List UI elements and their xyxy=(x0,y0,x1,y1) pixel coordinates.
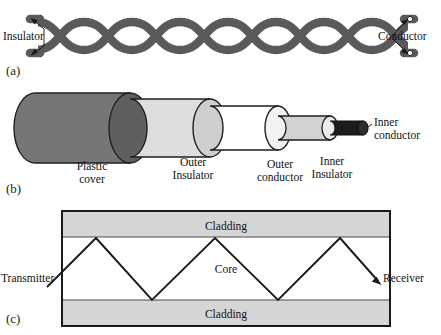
label-cladding-bottom: Cladding xyxy=(205,308,247,321)
label-plastic-cover: Plastic cover xyxy=(54,160,130,185)
panel-tag-c: (c) xyxy=(6,311,20,327)
label-transmitter: Transmitter xyxy=(1,272,54,285)
label-outer-conductor-line2: conductor xyxy=(257,171,303,183)
label-outer-insulator-line2: Insulator xyxy=(173,169,214,181)
inner-conductor-leader xyxy=(368,124,372,127)
coax-inner-insulator xyxy=(278,116,338,140)
optical-fiber-diagram: Cladding Cladding Core xyxy=(0,205,441,335)
label-plastic-cover-line1: Plastic xyxy=(77,160,108,172)
label-outer-insulator-line1: Outer xyxy=(180,156,206,168)
transmission-media-figure: Insulator Conductor (a) xyxy=(0,0,441,335)
label-inner-insulator-line2: Insulator xyxy=(312,168,353,180)
label-conductor: Conductor xyxy=(378,30,427,43)
label-plastic-cover-line2: cover xyxy=(79,173,105,185)
label-inner-conductor: Inner conductor xyxy=(374,116,438,141)
panel-tag-b: (b) xyxy=(6,181,21,197)
label-inner-insulator: Inner Insulator xyxy=(298,155,366,180)
label-core: Core xyxy=(215,263,237,275)
label-inner-conductor-line1: Inner xyxy=(374,116,398,128)
label-cladding-top: Cladding xyxy=(205,220,247,233)
label-insulator: Insulator xyxy=(3,30,44,43)
label-inner-conductor-line2: conductor xyxy=(374,129,420,141)
coax-plastic-cover xyxy=(14,93,151,163)
wire-strands xyxy=(36,22,420,50)
twisted-pair-wires xyxy=(30,19,420,53)
panel-tag-a: (a) xyxy=(6,63,20,79)
label-outer-conductor-line1: Outer xyxy=(267,158,293,170)
label-outer-insulator: Outer Insulator xyxy=(150,156,236,181)
label-receiver: Receiver xyxy=(383,272,424,285)
coax-inner-conductor xyxy=(330,121,368,135)
label-inner-insulator-line1: Inner xyxy=(320,155,344,167)
twisted-pair-diagram xyxy=(0,0,441,90)
